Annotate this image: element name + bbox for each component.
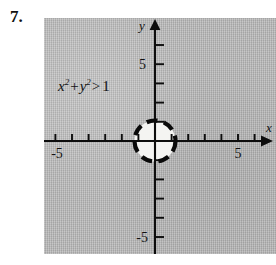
y-tick-label-5: 5 bbox=[139, 57, 146, 72]
figure-container: 7. bbox=[0, 0, 276, 265]
y-axis-label: y bbox=[137, 18, 145, 33]
plot-panel: y x 5 -5 -5 5 bbox=[44, 18, 276, 254]
inequality-relation: > bbox=[91, 78, 101, 94]
inequality-rhs: 1 bbox=[101, 78, 111, 94]
coordinate-plane-svg: y x 5 -5 -5 5 bbox=[44, 18, 276, 254]
inequality-annotation: x2+y2>1 bbox=[58, 79, 111, 94]
inequality-x-base: x bbox=[58, 78, 65, 94]
problem-number: 7. bbox=[10, 8, 23, 25]
y-axis-arrowhead bbox=[150, 19, 161, 30]
x-tick-label-neg5: -5 bbox=[51, 146, 63, 161]
x-axis-arrowhead bbox=[261, 136, 273, 147]
x-tick-label-5: 5 bbox=[235, 146, 242, 161]
inequality-plus: + bbox=[69, 78, 79, 94]
y-tick-label-neg5: -5 bbox=[136, 230, 148, 245]
x-axis-label: x bbox=[265, 120, 272, 135]
